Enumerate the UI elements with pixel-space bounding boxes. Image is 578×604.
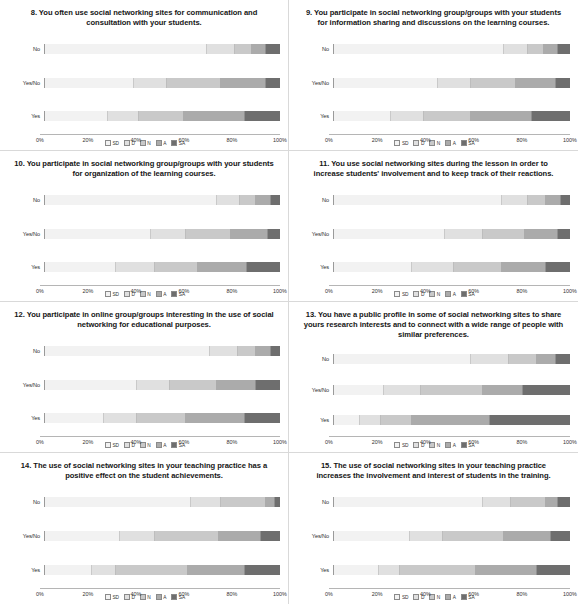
legend-swatch-sa-icon — [171, 291, 177, 297]
bar-segment-n — [528, 44, 545, 54]
bar-row: No — [10, 194, 280, 206]
bar-row: Yes/No — [299, 77, 570, 89]
legend-item-a: A — [156, 140, 167, 146]
x-axis-tick-label: 100% — [563, 439, 577, 445]
bar-segment-sd — [334, 415, 360, 425]
bar-segment-sa — [551, 531, 570, 541]
bar-segment-a — [412, 415, 490, 425]
bar-segment-sd — [45, 44, 207, 54]
bar-segment-sa — [266, 44, 280, 54]
bar-segment-d — [412, 262, 454, 272]
survey-chart-grid: 8. You often use social networking sites… — [0, 0, 578, 604]
bar-segment-a — [504, 531, 551, 541]
legend-swatch-sd-icon — [394, 442, 400, 448]
bar-segment-sd — [334, 44, 504, 54]
bar-rows: NoYes/NoYes — [10, 32, 280, 133]
bar-segment-sd — [334, 531, 410, 541]
x-axis: 0%20%40%60%80%100% — [329, 588, 570, 591]
x-axis-tick-label: 60% — [468, 591, 479, 597]
bar-segment-sa — [256, 380, 280, 390]
x-axis: 0%20%40%60%80%100% — [329, 436, 570, 439]
panel-title: 15. The use of social networking sites i… — [303, 461, 564, 481]
bar-row: Yes — [299, 414, 570, 426]
chart-panel-q8: 8. You often use social networking sites… — [0, 0, 289, 151]
category-label: No — [10, 348, 44, 354]
x-axis-tick-label: 20% — [372, 439, 383, 445]
stacked-bar — [333, 385, 570, 395]
legend-item-sd: SD — [105, 140, 119, 146]
stacked-bar — [44, 229, 280, 239]
legend-label: A — [163, 141, 166, 146]
legend-item-sd: SD — [394, 442, 408, 448]
x-axis-tick-label: 20% — [372, 591, 383, 597]
x-axis-tick-label: 40% — [131, 288, 142, 294]
legend-swatch-sa-icon — [171, 594, 177, 600]
panel-title: 11. You use social networking sites duri… — [303, 159, 564, 179]
bar-row: Yes — [10, 110, 280, 122]
legend-swatch-d-icon — [413, 594, 419, 600]
legend-swatch-sa-icon — [461, 140, 467, 146]
x-axis-tick-label: 20% — [83, 439, 94, 445]
bar-segment-sa — [490, 415, 570, 425]
x-axis-tick-label: 60% — [179, 137, 190, 143]
legend-label: N — [147, 595, 150, 600]
legend-label: N — [147, 292, 150, 297]
legend-swatch-d-icon — [413, 140, 419, 146]
bar-segment-sa — [556, 354, 570, 364]
bar-segment-a — [266, 497, 275, 507]
bar-segment-a — [537, 354, 556, 364]
bar-row: Yes/No — [299, 530, 570, 542]
bar-segment-sd — [334, 111, 391, 121]
bar-segment-d — [483, 497, 511, 507]
category-label: Yes — [299, 113, 333, 119]
bar-segment-d — [151, 229, 186, 239]
legend: SDDNASA — [299, 140, 570, 146]
x-axis-tick-label: 80% — [516, 137, 527, 143]
category-label: Yes/No — [10, 80, 44, 86]
legend-item-a: A — [156, 594, 167, 600]
legend-swatch-a-icon — [156, 594, 162, 600]
category-label: No — [10, 46, 44, 52]
x-axis-tick-label: 20% — [83, 137, 94, 143]
legend-swatch-sa-icon — [461, 291, 467, 297]
bar-segment-n — [528, 195, 547, 205]
bar-segment-n — [221, 497, 266, 507]
stacked-bar — [44, 346, 280, 356]
stacked-bar — [333, 229, 570, 239]
stacked-bar — [44, 78, 280, 88]
bar-segment-d — [438, 78, 471, 88]
category-label: Yes — [10, 567, 44, 573]
x-axis-tick-label: 60% — [468, 137, 479, 143]
plot-area: NoYes/NoYes0%20%40%60%80%100%SDDNASA — [297, 32, 570, 148]
legend-label: A — [163, 292, 166, 297]
bar-segment-sa — [271, 346, 280, 356]
category-label: No — [299, 356, 333, 362]
legend-swatch-a-icon — [156, 291, 162, 297]
category-label: Yes — [10, 415, 44, 421]
legend-swatch-d-icon — [124, 291, 130, 297]
bar-segment-sa — [275, 497, 280, 507]
x-axis: 0%20%40%60%80%100% — [329, 134, 570, 137]
x-axis-tick-label: 60% — [179, 591, 190, 597]
category-label: No — [10, 499, 44, 505]
x-axis-tick-label: 20% — [83, 288, 94, 294]
x-axis-tick-label: 80% — [516, 591, 527, 597]
stacked-bar — [44, 413, 280, 423]
bar-row: Yes/No — [10, 228, 280, 240]
legend-label: N — [437, 443, 440, 448]
x-axis-tick-label: 0% — [325, 288, 333, 294]
x-axis-tick-label: 40% — [131, 591, 142, 597]
legend-label: SD — [112, 443, 118, 448]
bar-segment-d — [360, 415, 381, 425]
legend-label: A — [453, 443, 456, 448]
bar-row: No — [299, 353, 570, 365]
legend-swatch-a-icon — [156, 442, 162, 448]
bar-segment-sa — [261, 531, 280, 541]
bar-segment-sa — [245, 111, 280, 121]
bar-row: Yes — [299, 110, 570, 122]
bar-rows: NoYes/NoYes — [299, 485, 570, 587]
category-label: Yes/No — [10, 382, 44, 388]
bar-segment-d — [410, 531, 443, 541]
bar-segment-sd — [45, 78, 134, 88]
panel-title: 9. You participate in social networking … — [303, 8, 564, 28]
